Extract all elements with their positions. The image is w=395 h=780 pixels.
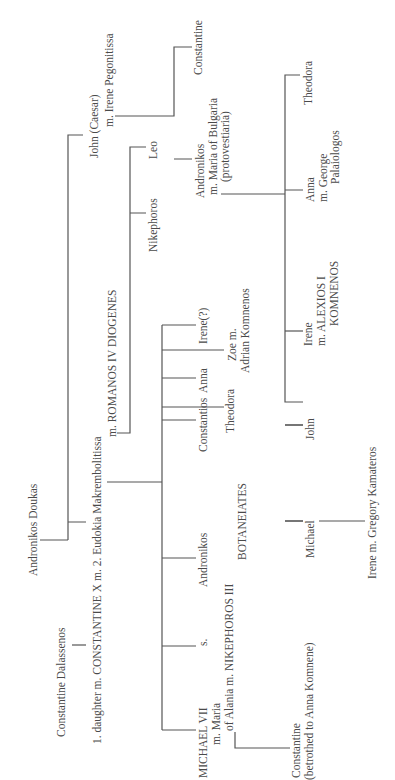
person-irene-kamateros: Irene m. Gregory Kamateros: [366, 446, 379, 579]
person-zoe: Zoe m. Adrian Komnenos: [226, 288, 251, 373]
person-constantine-dalassenos: Constantine Dalassenos: [55, 627, 67, 737]
svg-text:John (Caesar): John (Caesar): [88, 94, 101, 158]
svg-text:Irene(?): Irene(?): [197, 307, 210, 344]
person-andronikos-son-of-john: Andronikos m. Maria of Bulgaria (protove…: [194, 98, 232, 198]
person-michael-vii: MICHAEL VII m. Maria of Alania m. NIKEPH…: [197, 483, 248, 778]
svg-text:(protovestiaria): (protovestiaria): [219, 111, 232, 182]
svg-text:Leo: Leo: [147, 141, 159, 159]
line-michael-vii-son: [235, 732, 290, 748]
svg-text:Anna: Anna: [304, 177, 316, 202]
person-theodora-daughter-of-andronikos: Theodora: [302, 61, 314, 105]
person-john-caesar: John (Caesar) m. Irene Pegonitissa: [88, 33, 116, 158]
svg-text:Adrian Komnenos: Adrian Komnenos: [239, 288, 251, 373]
svg-text:Nikephoros: Nikephoros: [147, 198, 160, 252]
person-anna-daughter-of-constantine: Anna: [197, 368, 209, 393]
person-irene-alexios: Irene m. ALEXIOS I KOMNENOS: [302, 261, 340, 346]
svg-text:Anna: Anna: [197, 368, 209, 393]
svg-text:m. ROMANOS IV DIOGENES: m. ROMANOS IV DIOGENES: [106, 290, 118, 437]
person-john-son-of-andronikos: John: [304, 418, 316, 440]
line-andronikos-doukas-children: [40, 135, 86, 540]
svg-text:Constantine Dalassenos: Constantine Dalassenos: [55, 627, 67, 737]
person-constantine-x: 1. daughter m. CONSTANTINE X m. 2. Eudok…: [91, 290, 118, 744]
svg-text:KOMNENOS: KOMNENOS: [328, 261, 340, 326]
person-constantine-son-of-john: Constantine: [192, 20, 204, 75]
person-constantios: Constantios: [197, 397, 209, 452]
line-andronikos-children: [221, 75, 303, 521]
person-leo: Leo: [147, 141, 159, 159]
svg-text:Irene: Irene: [302, 322, 314, 346]
svg-text:m. Irene Pegonitissa: m. Irene Pegonitissa: [103, 33, 116, 127]
person-nikephoros: Nikephoros: [147, 198, 160, 252]
svg-text:BOTANEIATES: BOTANEIATES: [236, 483, 248, 560]
svg-text:Irene m. Gregory Kamateros: Irene m. Gregory Kamateros: [366, 446, 379, 579]
genealogy-tree: Andronikos Doukas Constantine Dalassenos…: [0, 0, 395, 780]
svg-text:Andronikos Doukas: Andronikos Doukas: [27, 483, 39, 576]
svg-text:Palaiologos: Palaiologos: [329, 130, 342, 184]
svg-text:Constantine: Constantine: [192, 20, 204, 75]
svg-text:Theodora: Theodora: [302, 61, 314, 105]
person-andronikos-doukas: Andronikos Doukas: [27, 483, 39, 576]
svg-text:Andronikos: Andronikos: [197, 532, 209, 587]
svg-text:John: John: [304, 418, 316, 440]
person-theodora-daughter-of-constantine: Theodora: [224, 389, 236, 433]
person-anna-palaiologos: Anna m. George Palaiologos: [304, 130, 342, 202]
line-romanos-children: [117, 147, 146, 433]
svg-text:m. ALEXIOS I: m. ALEXIOS I: [315, 276, 327, 346]
person-irene-q: Irene(?): [197, 307, 210, 344]
svg-text:Theodora: Theodora: [224, 389, 236, 433]
svg-text:(betrothed to Anna Komnene): (betrothed to Anna Komnene): [303, 642, 316, 780]
svg-text:m. Maria: m. Maria: [210, 703, 222, 745]
svg-text:of Alania m. NIKEPHOROS III: of Alania m. NIKEPHOROS III: [223, 584, 235, 731]
person-s: s.: [197, 639, 209, 646]
svg-text:Zoe m.: Zoe m.: [226, 328, 238, 361]
svg-text:Constantine: Constantine: [290, 723, 302, 778]
svg-text:Andronikos: Andronikos: [194, 143, 206, 198]
svg-text:1. daughter m. CONSTANTINE X: 1. daughter m. CONSTANTINE X m. 2. Eudok…: [91, 436, 104, 744]
svg-text:Michael: Michael: [304, 520, 316, 558]
svg-text:Constantios: Constantios: [197, 397, 209, 452]
person-andronikos-son-of-constantine: Andronikos: [197, 532, 209, 587]
svg-text:MICHAEL VII: MICHAEL VII: [197, 707, 209, 778]
svg-text:s.: s.: [197, 639, 209, 646]
person-michael-son-of-andronikos: Michael: [304, 520, 316, 558]
person-constantine-son-of-michael: Constantine (betrothed to Anna Komnene): [290, 642, 316, 780]
